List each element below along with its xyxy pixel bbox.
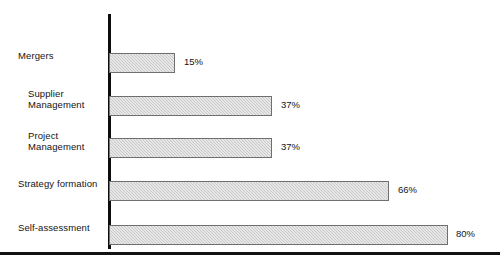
bar-self-assessment[interactable] — [109, 225, 448, 245]
bar-supplier-management[interactable] — [109, 96, 272, 116]
category-label: Supplier Management — [28, 88, 118, 110]
bar-mergers[interactable] — [109, 53, 175, 73]
bottom-divider-rule — [0, 252, 500, 255]
bar-value-label: 15% — [184, 56, 203, 67]
bar-chart: Mergers 15% Supplier Management 37% Proj… — [0, 0, 500, 267]
bar-row: Self-assessment 80% — [0, 0, 500, 21]
bar-value-label: 66% — [398, 184, 417, 195]
bar-value-label: 80% — [456, 228, 475, 239]
bar-strategy-formation[interactable] — [109, 181, 389, 201]
bar-value-label: 37% — [281, 99, 300, 110]
category-label: Project Management — [28, 130, 118, 152]
category-label: Strategy formation — [18, 178, 108, 189]
category-label: Mergers — [18, 50, 108, 61]
category-label: Self-assessment — [18, 222, 108, 233]
bar-value-label: 37% — [281, 141, 300, 152]
bar-project-management[interactable] — [109, 138, 272, 158]
